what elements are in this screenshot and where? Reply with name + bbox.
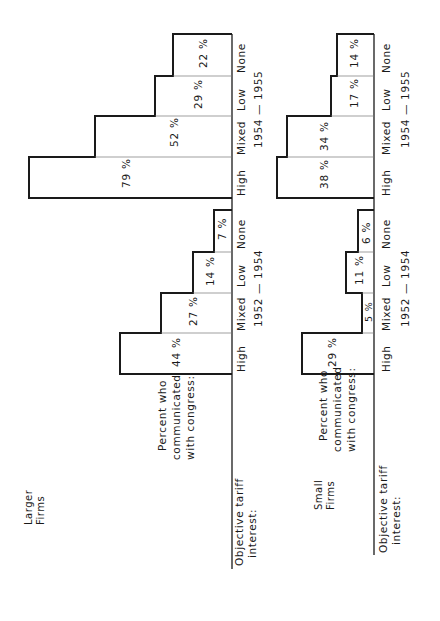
small-ylabel-line3: with congress: (345, 367, 357, 452)
chart-svg: Larger Firms Percent who communicated wi… (0, 0, 440, 621)
larger-xlabel-line1: Objective tariff (233, 478, 245, 566)
larger-cat-none-1954: None (235, 43, 247, 73)
small-cat-none-1954: None (380, 43, 392, 73)
larger-cat-high-1954: High (235, 169, 247, 196)
larger-cat-mixed-1952: Mixed (235, 297, 247, 331)
larger-firms-label-line2: Firms (35, 496, 46, 525)
small-cat-low-1952: Low (380, 265, 392, 287)
larger-period-1952-1954: 1952 — 1954 (252, 250, 264, 327)
larger-firms-panel: Larger Firms Percent who communicated wi… (23, 34, 264, 569)
small-cat-high-1952: High (380, 345, 392, 372)
larger-cat-low-1952: Low (235, 265, 247, 287)
larger-1954-high-value: 79 % (120, 158, 132, 188)
larger-1952-none-value: 7 % (216, 218, 228, 240)
larger-1954-none-value: 22 % (197, 38, 209, 68)
larger-cat-none-1952: None (235, 219, 247, 249)
larger-ylabel-line1: Percent who (156, 380, 168, 451)
larger-xlabel-line2: interest: (246, 509, 258, 558)
larger-ylabel-line2: communicated (170, 374, 182, 460)
larger-firms-label-line1: Larger (23, 489, 34, 525)
small-1954-high-value: 38 % (318, 159, 330, 189)
larger-1954-low-value: 29 % (192, 79, 204, 109)
small-firms-label-line2: Firms (325, 481, 336, 510)
larger-1954-mixed-value: 52 % (168, 117, 180, 147)
small-1954-mixed-value: 34 % (318, 121, 330, 151)
small-period-1952-1954: 1952 — 1954 (399, 250, 411, 327)
small-cat-low-1954: Low (380, 89, 392, 111)
larger-1952-low-value: 14 % (204, 256, 216, 286)
small-1954-low-value: 17 % (348, 78, 360, 108)
larger-1952-high-value: 44 % (170, 337, 182, 367)
small-firms-label-line1: Small (313, 480, 324, 510)
small-cat-none-1952: None (380, 219, 392, 249)
small-1952-high-value: 29 % (326, 337, 338, 367)
small-cat-mixed-1952: Mixed (380, 297, 392, 331)
larger-1952-mixed-value: 27 % (187, 296, 199, 326)
small-xlabel-line2: interest: (390, 496, 402, 545)
larger-cat-mixed-1954: Mixed (235, 121, 247, 155)
small-1952-mixed-value: 5 % (363, 302, 374, 323)
larger-cat-low-1954: Low (235, 89, 247, 111)
larger-period-1954-1955: 1954 — 1955 (252, 71, 264, 148)
small-firms-panel: Small Firms Percent who communicated wit… (277, 34, 411, 555)
small-1952-low-value: 11 % (353, 255, 365, 285)
small-period-1954-1955: 1954 — 1955 (399, 71, 411, 148)
larger-cat-high-1952: High (235, 345, 247, 372)
small-cat-mixed-1954: Mixed (380, 121, 392, 155)
small-ylabel-line1: Percent who (317, 370, 329, 441)
small-cat-high-1954: High (380, 169, 392, 196)
chart-figure: Larger Firms Percent who communicated wi… (0, 0, 440, 621)
small-1952-none-value: 6 % (360, 222, 372, 244)
small-ylabel-line2: communicated (331, 366, 343, 452)
small-1954-none-value: 14 % (348, 38, 360, 68)
small-xlabel-line1: Objective tariff (377, 465, 389, 553)
larger-ylabel-line3: with congress: (184, 375, 196, 460)
